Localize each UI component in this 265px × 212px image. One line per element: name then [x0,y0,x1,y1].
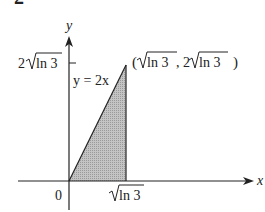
svg-text:ln 3: ln 3 [147,55,168,70]
svg-text:): ) [233,54,238,71]
svg-text:, 2: , 2 [176,55,190,70]
y-axis-label: y [64,18,73,33]
svg-text:ln 3: ln 3 [119,188,140,203]
svg-text:(: ( [132,54,137,71]
svg-text:ln 3: ln 3 [199,55,220,70]
point-label: ( ln 3 , 2 ln 3 ) [132,52,238,71]
x-axis-label: x [256,173,264,188]
diagram: 2 x y 2 ln 3 y = 2x ( ln 3 , 2 ln 3 ) 0 … [0,0,265,212]
y-tick-label: 2 ln 3 [18,53,62,71]
header-fragment: 2 [14,0,24,8]
svg-text:ln 3: ln 3 [36,56,57,71]
curve-label: y = 2x [73,73,109,88]
origin-label: 0 [55,188,62,203]
x-tick-label: ln 3 [109,185,144,203]
svg-text:2: 2 [18,56,25,71]
